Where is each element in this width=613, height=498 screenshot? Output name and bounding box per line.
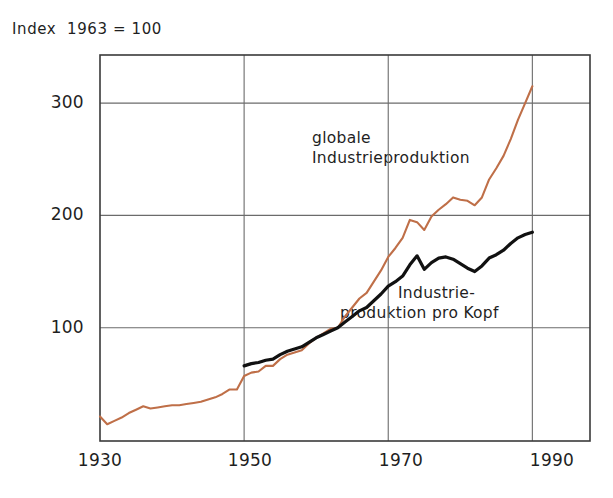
grid-lines [100, 55, 590, 441]
plot-area [0, 0, 613, 498]
data-series [100, 86, 532, 424]
chart-figure: Index 1963 = 100 300 200 100 1930 1950 1… [0, 0, 613, 498]
plot-frame [100, 55, 590, 441]
